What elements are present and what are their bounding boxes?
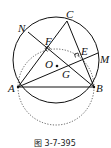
label-n: N xyxy=(17,22,26,34)
label-o: O xyxy=(45,58,53,70)
label-m: M xyxy=(99,53,110,65)
right-angle-mark-e xyxy=(75,53,80,58)
figure-caption: 图 3-7-395 xyxy=(34,139,76,148)
label-a: A xyxy=(7,82,15,94)
circumcircle xyxy=(13,17,99,103)
point-b xyxy=(93,86,95,88)
label-e: E xyxy=(80,45,88,57)
point-a xyxy=(17,86,19,88)
label-c: C xyxy=(66,8,74,20)
label-b: B xyxy=(96,82,103,94)
label-g: G xyxy=(62,68,70,80)
geometry-figure: C N M F E O G A B 图 3-7-395 xyxy=(0,0,111,148)
point-o xyxy=(56,65,59,68)
label-f: F xyxy=(44,35,52,47)
